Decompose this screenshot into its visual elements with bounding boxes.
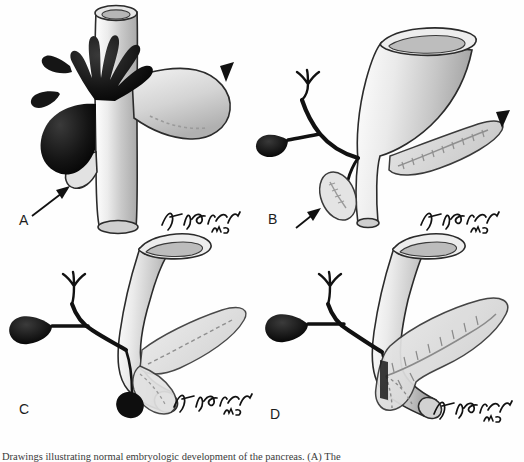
panel-d: D <box>262 220 524 451</box>
panel-b-illustration <box>262 0 524 231</box>
arrow-marker-ventral <box>32 186 70 216</box>
panel-b: B <box>262 0 524 231</box>
hepatic-ducts <box>63 272 126 350</box>
arrowhead-marker-dorsal <box>220 62 234 82</box>
gallbladder <box>9 316 52 344</box>
gallbladder <box>265 314 308 342</box>
gallbladder <box>256 135 288 157</box>
figure-container: A <box>0 0 524 462</box>
panel-d-illustration <box>262 220 524 451</box>
duodenum-funnel <box>356 28 476 228</box>
panel-label-c: C <box>19 401 30 417</box>
ventral-pancreas <box>313 166 363 225</box>
panel-c-illustration <box>0 220 262 451</box>
ampulla-junction <box>380 360 388 400</box>
panel-a-illustration <box>0 0 262 231</box>
figure-caption: Drawings illustrating normal embryologic… <box>0 450 524 462</box>
panel-label-d: D <box>270 406 281 422</box>
panel-a: A <box>0 0 262 231</box>
dorsal-pancreas <box>140 308 246 374</box>
hepatic-ducts <box>297 70 358 158</box>
panel-c: C <box>0 220 262 451</box>
cystic-duct <box>288 134 320 140</box>
